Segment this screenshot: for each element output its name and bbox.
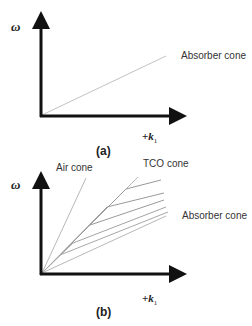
panel-b-absorber-cone-label: Absorber cone	[182, 211, 247, 221]
panel-b-air-cone-label: Air cone	[56, 163, 93, 173]
diagram-canvas	[0, 0, 252, 326]
panel-b-x-axis-label: +k1	[142, 293, 157, 307]
x-axis-sub: 1	[154, 299, 158, 307]
panel-b-tco-cone-label: TCO cone	[143, 159, 189, 169]
panel-b-mode-line-4	[42, 207, 166, 273]
panel-a-y-axis-label: ω	[11, 20, 20, 33]
panel-b-air-cone-line	[42, 178, 86, 273]
panel-a-x-axis-label: +k1	[142, 131, 157, 145]
x-axis-sub: 1	[154, 137, 158, 145]
panel-b-y-axis-label: ω	[11, 178, 20, 191]
panel-b-absorber-cone-line	[42, 216, 166, 273]
panel-a-absorber-cone-line	[42, 56, 166, 115]
panel-b-plot	[40, 177, 178, 275]
panel-a-absorber-cone-label: Absorber cone	[181, 51, 246, 61]
panel-b-caption: (b)	[96, 306, 111, 318]
panel-a-plot	[40, 20, 178, 117]
panel-a-caption: (a)	[96, 145, 111, 157]
